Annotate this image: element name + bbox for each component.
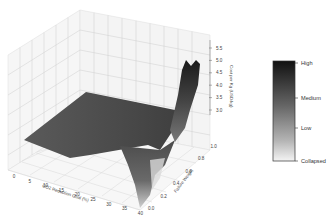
y-tick-label: 0.2 [161,194,168,199]
colorbar-label: Collapsed [301,158,326,164]
z-axis-label: Cost per Kg (USD/kg) [229,65,234,108]
z-axis: 3.03.54.04.55.05.5 Cost per Kg (USD/kg) [209,40,234,115]
z-tick-label: 4.0 [216,83,223,88]
colorbar-label: High [301,60,313,66]
y-tick-label: 1.0 [211,144,218,149]
x-tick-label: 25 [90,197,96,202]
colorbar: HighMediumLowCollapsed [273,60,326,164]
x-tick-label: 5 [29,179,32,184]
x-tick-label: 40 [138,211,144,216]
z-tick-label: 3.5 [216,95,223,100]
z-tick-label: 4.5 [216,70,223,75]
y-tick-label: 0.8 [198,156,205,161]
y-tick-label: 0.0 [148,206,155,211]
z-tick-label: 3.0 [216,108,223,113]
z-tick-label: 5.5 [216,46,223,51]
x-tick-label: 0 [13,174,16,179]
colorbar-label: Low [301,125,312,131]
x-tick-label: 35 [122,206,128,211]
colorbar-label: Medium [301,95,321,101]
z-tick-label: 5.0 [216,58,223,63]
x-tick-label: 30 [106,202,112,207]
surface-chart: 3.03.54.04.55.05.5 Cost per Kg (USD/kg) … [0,0,334,218]
